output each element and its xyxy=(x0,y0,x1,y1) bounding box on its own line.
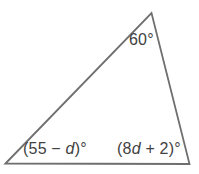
angle-bottom-right-close: + 2)° xyxy=(141,140,181,157)
angle-bottom-left-open: (55 − xyxy=(23,140,66,157)
angle-value-top: 60° xyxy=(129,31,154,48)
angle-bottom-left-variable: d xyxy=(66,140,75,157)
angle-label-bottom-left: (55 − d)° xyxy=(23,140,87,158)
angle-bottom-left-close: )° xyxy=(75,140,87,157)
angle-bottom-right-variable: d xyxy=(132,140,141,157)
angle-bottom-right-open: (8 xyxy=(117,140,132,157)
angle-label-top: 60° xyxy=(129,31,154,49)
angle-label-bottom-right: (8d + 2)° xyxy=(117,140,181,158)
triangle-figure: 60° (55 − d)° (8d + 2)° xyxy=(0,0,199,174)
